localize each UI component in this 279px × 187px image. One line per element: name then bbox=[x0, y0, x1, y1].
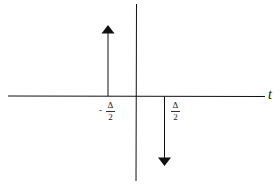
denominator: 2 bbox=[106, 113, 115, 122]
diagram-canvas bbox=[0, 0, 279, 187]
numerator: Δ bbox=[171, 101, 180, 110]
arrowhead-down-icon bbox=[158, 158, 171, 167]
label-minus-delta-over-2: - Δ 2 bbox=[106, 101, 115, 122]
minus-sign: - bbox=[99, 106, 102, 115]
impulse-down-arrow bbox=[158, 97, 171, 167]
axis-label-t: t bbox=[268, 87, 272, 103]
label-delta-over-2: Δ 2 bbox=[171, 101, 180, 122]
arrowhead-up-icon bbox=[102, 25, 115, 34]
denominator: 2 bbox=[171, 113, 180, 122]
numerator: Δ bbox=[106, 101, 115, 110]
vertical-axis bbox=[136, 4, 137, 181]
impulse-up-arrow bbox=[102, 25, 115, 96]
